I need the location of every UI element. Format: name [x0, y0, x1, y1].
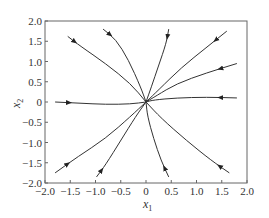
y-tick-label: 2.0 — [28, 15, 42, 27]
x-tick-label: −0.5 — [111, 185, 131, 197]
trajectory-curve — [55, 102, 146, 173]
y-tick-label: 0.5 — [28, 76, 42, 88]
x-tick-label: 1.0 — [190, 185, 204, 197]
y-tick-label: −2.0 — [22, 177, 42, 189]
y-tick-label: 0 — [37, 96, 43, 108]
y-axis-ticks: −2.0−1.5−1.0−0.500.51.01.52.0 — [22, 15, 48, 189]
y-tick-label: −0.5 — [22, 116, 42, 128]
x-tick-label: 2.0 — [240, 185, 254, 197]
x-tick-label: 0 — [143, 185, 149, 197]
trajectory-curve — [55, 102, 146, 104]
y-axis-label: x2 — [9, 99, 25, 109]
trajectory-curve — [68, 36, 146, 102]
x-tick-label: −1.5 — [60, 185, 80, 197]
y-tick-label: −1.0 — [22, 137, 42, 149]
y-tick-label: 1.5 — [28, 35, 42, 47]
y-tick-label: −1.5 — [22, 157, 42, 169]
trajectories — [55, 29, 237, 177]
x-axis-label: x1 — [142, 197, 152, 213]
trajectory-curve — [103, 29, 146, 102]
trajectory-curve — [146, 102, 169, 177]
trajectory-curve — [146, 97, 237, 102]
x-tick-label: 0.5 — [164, 185, 178, 197]
y-tick-label: 1.0 — [28, 56, 42, 68]
phase-portrait-chart: −2.0−1.5−1.0−0.500.51.01.52.0 −2.0−1.5−1… — [0, 0, 269, 218]
trajectory-curve — [146, 102, 229, 173]
x-tick-label: −1.0 — [86, 185, 106, 197]
trajectory-curve — [146, 64, 237, 102]
x-tick-label: 1.5 — [215, 185, 229, 197]
